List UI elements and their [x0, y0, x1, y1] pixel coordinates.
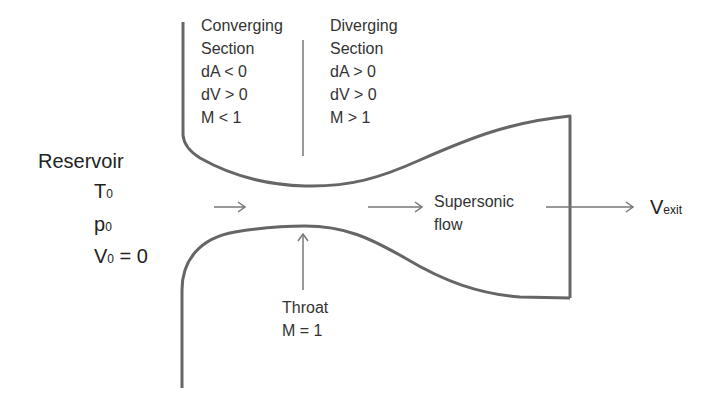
throat-label-line1: Throat — [282, 296, 328, 319]
exit-velocity-symbol: V — [650, 196, 663, 218]
temperature-subscript: 0 — [106, 187, 113, 201]
converging-title: Converging — [201, 14, 283, 37]
throat-label-line2: M = 1 — [282, 319, 328, 342]
throat-label: Throat M = 1 — [282, 296, 328, 342]
throat-pointer-arrow — [298, 234, 308, 290]
flow-arrow — [368, 202, 422, 212]
converging-dA: dA < 0 — [201, 60, 283, 83]
converging-mach: M < 1 — [201, 106, 283, 129]
exit-velocity-subscript: exit — [663, 203, 682, 217]
exit-flow-arrow — [546, 202, 633, 212]
reservoir-temperature: T0 — [94, 178, 113, 207]
converging-subtitle: Section — [201, 37, 283, 60]
velocity-value: = 0 — [114, 245, 148, 267]
lower-nozzle-wall — [182, 226, 570, 388]
pressure-symbol: p — [94, 213, 105, 235]
pressure-subscript: 0 — [105, 220, 112, 234]
supersonic-label-line2: flow — [434, 213, 514, 236]
inlet-flow-arrow — [214, 202, 245, 212]
diverging-mach: M > 1 — [330, 106, 398, 129]
supersonic-flow-label: Supersonic flow — [434, 190, 514, 236]
diverging-dV: dV > 0 — [330, 83, 398, 106]
diverging-dA: dA > 0 — [330, 60, 398, 83]
converging-dV: dV > 0 — [201, 83, 283, 106]
exit-velocity-label: Vexit — [650, 194, 682, 223]
diverging-title: Diverging — [330, 14, 398, 37]
diverging-subtitle: Section — [330, 37, 398, 60]
supersonic-label-line1: Supersonic — [434, 190, 514, 213]
velocity-symbol: V — [94, 245, 107, 267]
reservoir-title: Reservoir — [38, 148, 124, 174]
diverging-section-label: Diverging Section dA > 0 dV > 0 M > 1 — [330, 14, 398, 129]
reservoir-velocity: V0 = 0 — [94, 243, 148, 272]
temperature-symbol: T — [94, 180, 106, 202]
reservoir-pressure: p0 — [94, 211, 112, 240]
converging-section-label: Converging Section dA < 0 dV > 0 M < 1 — [201, 14, 283, 129]
